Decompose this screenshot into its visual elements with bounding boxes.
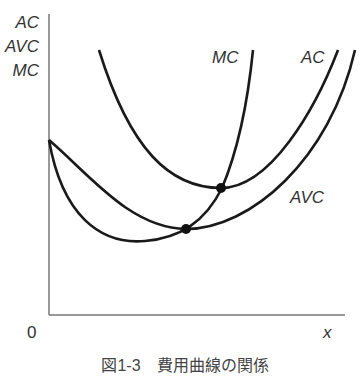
- origin-label: 0: [27, 324, 36, 341]
- x-axis-label: x: [323, 324, 332, 341]
- figure-caption: 図1-3 費用曲線の関係: [60, 352, 310, 376]
- mc-curve: [49, 50, 253, 241]
- mc-curve-label: MC: [212, 49, 238, 66]
- avc-min-point: [181, 224, 191, 234]
- ac-curve: [99, 50, 338, 188]
- avc-curve-label: AVC: [290, 189, 324, 206]
- y-axis-label-ac: AC: [15, 14, 39, 31]
- y-axis-label-mc: MC: [13, 62, 39, 79]
- ac-curve-label: AC: [301, 49, 325, 66]
- ac-min-point: [216, 183, 226, 193]
- y-axis-label-avc: AVC: [5, 38, 39, 55]
